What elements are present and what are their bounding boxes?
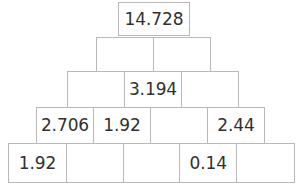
- pyramid-cell-r3c1[interactable]: 1.92: [93, 107, 151, 144]
- pyramid-cell-r2c1[interactable]: 3.194: [124, 71, 182, 108]
- pyramid-cell-r1c1[interactable]: [153, 37, 211, 72]
- pyramid-row-0: 14.728: [118, 2, 190, 36]
- pyramid-cell-r4c3[interactable]: 0.14: [179, 143, 237, 183]
- pyramid-cell-r3c0[interactable]: 2.706: [36, 107, 94, 144]
- pyramid-row-1: [96, 37, 212, 72]
- pyramid-cell-r2c2[interactable]: [181, 71, 239, 108]
- pyramid-cell-r2c0[interactable]: [67, 71, 125, 108]
- pyramid-row-4: 1.92 0.14: [8, 143, 295, 183]
- pyramid-cell-r1c0[interactable]: [96, 37, 154, 72]
- pyramid-row-2: 3.194: [67, 71, 240, 108]
- pyramid-cell-r3c2[interactable]: [150, 107, 208, 144]
- pyramid-cell-r4c0[interactable]: 1.92: [8, 143, 67, 183]
- pyramid-cell-r4c2[interactable]: [123, 143, 181, 183]
- pyramid-cell-r4c4[interactable]: [236, 143, 295, 183]
- pyramid-cell-r4c1[interactable]: [66, 143, 124, 183]
- pyramid-row-3: 2.706 1.92 2.44: [36, 107, 265, 144]
- pyramid-cell-r0c0[interactable]: 14.728: [118, 2, 190, 36]
- number-pyramid-diagram: 14.728 3.194 2.706 1.92 2.44 1.92 0.14: [0, 0, 301, 189]
- pyramid-cell-r3c3[interactable]: 2.44: [207, 107, 265, 144]
